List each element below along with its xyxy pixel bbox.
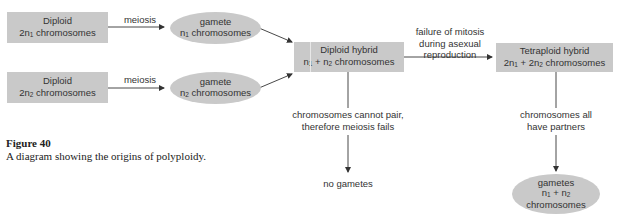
no-gametes-label: no gametes xyxy=(308,178,388,190)
figure-caption: A diagram showing the origins of polyplo… xyxy=(6,150,206,162)
diploid2-chromosomes: 2n2 chromosomes xyxy=(19,87,96,101)
tetraploid-hybrid-title: Tetraploid hybrid xyxy=(520,45,590,57)
tetraploid-hybrid-chromosomes: 2n1 + 2n2 chromosomes xyxy=(504,57,606,71)
failure-of-mitosis-label: failure of mitosis during asexual reprod… xyxy=(405,26,495,61)
cannot-pair-label: chromosomes cannot pair, therefore meios… xyxy=(288,109,408,132)
gametes-final-ellipse: gametes n1 + n2 chromosomes xyxy=(512,174,600,214)
gamete1-chromosomes: n1 chromosomes xyxy=(180,27,251,40)
gamete-n2-ellipse: gamete n2 chromosomes xyxy=(170,72,261,104)
meiosis-label-2: meiosis xyxy=(120,74,160,86)
gamete-n1-ellipse: gamete n1 chromosomes xyxy=(170,12,261,44)
gamete2-chromosomes: n2 chromosomes xyxy=(180,87,251,100)
figure-title: Figure 40 xyxy=(6,137,51,149)
gamete2-title: gamete xyxy=(200,76,232,87)
meiosis-label-1: meiosis xyxy=(120,14,160,26)
diploid-hybrid-chromosomes: n1 + n2 chromosomes xyxy=(304,56,395,70)
diploid-hybrid-title: Diploid hybrid xyxy=(320,44,378,56)
hybrid-box-divider xyxy=(310,42,311,72)
diploid-2n1-box: Diploid 2n1 chromosomes xyxy=(7,12,108,43)
gamete1-title: gamete xyxy=(200,16,232,27)
gametes-final-chromosomes: chromosomes xyxy=(526,200,586,210)
diploid2-title: Diploid xyxy=(43,75,72,87)
diploid-2n2-box: Diploid 2n2 chromosomes xyxy=(7,72,108,103)
tetraploid-hybrid-box: Tetraploid hybrid 2n1 + 2n2 chromosomes xyxy=(496,43,613,72)
diploid1-chromosomes: 2n1 chromosomes xyxy=(19,27,96,41)
all-partners-label: chromosomes all have partners xyxy=(511,109,601,132)
diploid1-title: Diploid xyxy=(43,15,72,27)
